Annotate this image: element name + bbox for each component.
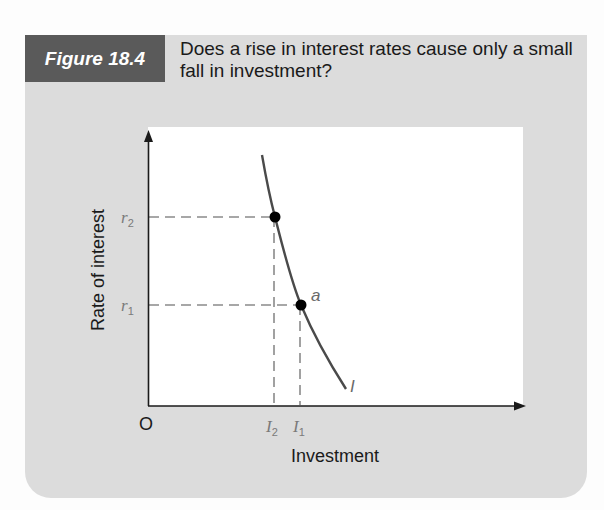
tick-i2-sub: 2 bbox=[272, 426, 278, 438]
origin-label: O bbox=[139, 414, 153, 435]
tick-r2: r2 bbox=[121, 209, 134, 232]
point-a-label: a bbox=[311, 286, 320, 306]
tick-r2-sub: 2 bbox=[128, 217, 134, 229]
tick-i1: I1 bbox=[293, 418, 305, 441]
curve-label: I bbox=[350, 377, 355, 397]
tick-i1-sub: 1 bbox=[299, 426, 305, 438]
tick-r1: r1 bbox=[121, 297, 134, 320]
tick-r1-sub: 1 bbox=[128, 305, 134, 317]
tick-i2: I2 bbox=[266, 418, 278, 441]
axes bbox=[144, 130, 526, 411]
tick-r1-base: r bbox=[121, 296, 128, 315]
point-a bbox=[296, 300, 307, 311]
dashed-guides bbox=[149, 217, 301, 405]
y-axis-label: Rate of interest bbox=[88, 209, 109, 331]
y-axis-arrow-icon bbox=[144, 130, 153, 142]
x-axis-label: Investment bbox=[291, 446, 379, 467]
point-r2-i2 bbox=[270, 212, 281, 223]
x-axis-arrow-icon bbox=[514, 402, 526, 411]
tick-r2-base: r bbox=[121, 208, 128, 227]
